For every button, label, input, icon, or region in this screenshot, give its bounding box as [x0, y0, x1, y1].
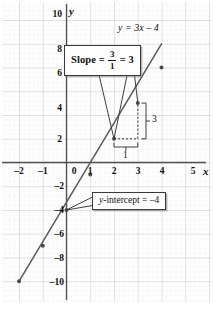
slope-numerator: 3: [109, 50, 116, 59]
x-tick-3: 3: [133, 166, 143, 176]
x-tick-4: 4: [157, 166, 167, 176]
rise-label: 3: [152, 114, 157, 124]
data-point: [41, 244, 45, 248]
x-tick-1: 1: [85, 166, 95, 176]
run-label: 1: [123, 150, 128, 160]
x-tick-5: 5: [188, 166, 198, 176]
y-tick-8: 8: [44, 44, 62, 54]
data-point: [17, 279, 21, 283]
y-tick-neg4: –4: [44, 205, 64, 215]
slope-fraction: 3 1: [108, 50, 116, 71]
x-axis-label: x: [203, 165, 209, 177]
y-axis-label: y: [69, 5, 74, 17]
y-tick-neg8: –8: [44, 253, 64, 263]
x-tick-neg2: –2: [11, 166, 27, 176]
y-intercept-callout: y-intercept = –4: [92, 192, 166, 210]
y-tick-neg2: –2: [44, 181, 64, 191]
x-tick-neg1: –1: [35, 166, 51, 176]
equation-label: y = 3x – 4: [118, 22, 159, 33]
y-tick-neg6: –6: [44, 229, 64, 239]
y-intercept-text: -intercept = –4: [103, 195, 159, 205]
y-tick-neg10: –10: [40, 277, 64, 287]
y-tick-10: 10: [44, 9, 62, 19]
data-point: [160, 66, 164, 70]
y-tick-6: 6: [44, 68, 62, 78]
slope-callout-lead: Slope =: [71, 55, 105, 66]
slope-denominator: 1: [109, 62, 116, 71]
graph-figure: y x 10 8 6 4 2 –2 –4 –6 –8 –10 –2 –1 0 1…: [0, 0, 214, 310]
x-tick-0: 0: [69, 166, 79, 176]
slope-callout-result: = 3: [120, 55, 134, 66]
slope-callout: Slope = 3 1 = 3: [64, 45, 141, 76]
x-tick-2: 2: [109, 166, 119, 176]
y-tick-4: 4: [44, 103, 62, 113]
y-tick-2: 2: [44, 134, 62, 144]
